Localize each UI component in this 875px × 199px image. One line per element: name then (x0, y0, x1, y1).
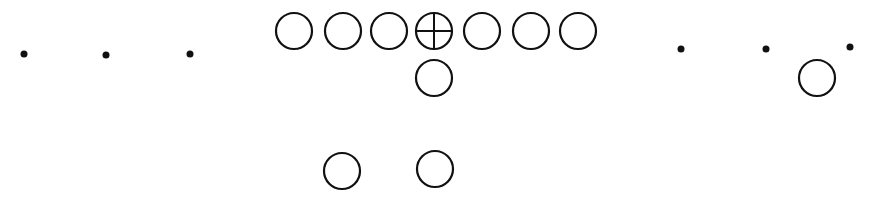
player-tight-end (560, 13, 596, 49)
formation-canvas (0, 0, 875, 199)
player-wingback (799, 60, 835, 96)
position-marker-dot (678, 46, 685, 53)
player-fullback (417, 151, 453, 187)
player-quarterback (416, 60, 452, 96)
player-center (416, 13, 452, 49)
player-right-tackle (513, 13, 549, 49)
position-marker-dot (103, 52, 110, 59)
position-marker-dot (21, 51, 28, 58)
position-marker-dot (187, 51, 194, 58)
player-left-tackle (276, 13, 312, 49)
position-marker-dot (763, 46, 770, 53)
player-halfback (324, 153, 360, 189)
formation-diagram (0, 0, 875, 199)
player-left-guard (325, 13, 361, 49)
player-right-guard (464, 13, 500, 49)
player-left-guard-inner (371, 13, 407, 49)
position-marker-dot (847, 44, 854, 51)
